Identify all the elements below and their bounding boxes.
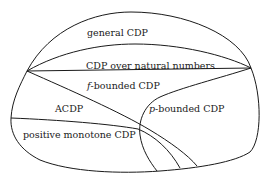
label-pbounded-suffix: -bounded CDP xyxy=(155,103,224,114)
label-acdp: ACDP xyxy=(55,104,83,114)
label-pbounded-cdp: p-bounded CDP xyxy=(149,104,224,114)
label-natural-numbers-cdp: CDP over natural numbers xyxy=(86,61,215,71)
label-fbounded-cdp: f-bounded CDP xyxy=(87,81,160,91)
label-fbounded-suffix: -bounded CDP xyxy=(91,80,160,91)
label-positive-monotone-cdp: positive monotone CDP xyxy=(23,130,136,140)
label-general-cdp: general CDP xyxy=(87,28,148,38)
positive-monotone-boundary xyxy=(11,118,180,168)
